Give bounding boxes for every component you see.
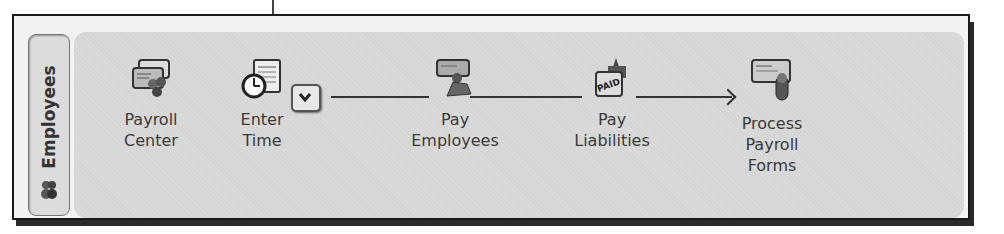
payroll-forms-icon [732, 56, 812, 109]
node-label-line: Process [732, 113, 812, 134]
node-label-line: Forms [732, 155, 812, 176]
process-payroll-forms-button[interactable]: Process Payroll Forms [732, 56, 812, 176]
payroll-center-icon [106, 56, 196, 105]
workflow-area [74, 32, 964, 218]
pay-liabilities-button[interactable]: PAID Pay Liabilities [562, 56, 662, 151]
node-label-line: Liabilities [562, 130, 662, 151]
paid-liabilities-icon: PAID [562, 56, 662, 105]
pay-employees-button[interactable]: Pay Employees [400, 56, 510, 151]
enter-time-dropdown-button[interactable] [291, 84, 321, 112]
node-label-line: Payroll [106, 109, 196, 130]
cropped-caption-text [60, 0, 620, 5]
enter-time-button[interactable]: Enter Time [232, 56, 292, 151]
chevron-down-icon [298, 91, 312, 103]
payroll-center-button[interactable]: Payroll Center [106, 56, 196, 151]
node-label-line: Pay [400, 109, 510, 130]
node-label-line: Pay [562, 109, 662, 130]
node-label-line: Time [232, 130, 292, 151]
employees-people-icon [41, 179, 57, 203]
employees-tab-label: Employees [39, 65, 59, 168]
node-label-line: Employees [400, 130, 510, 151]
employees-tab[interactable]: Employees [28, 34, 70, 216]
clock-timesheet-icon [232, 56, 292, 105]
node-label-line: Payroll [732, 134, 812, 155]
node-label-line: Center [106, 130, 196, 151]
pay-employees-icon [400, 56, 510, 105]
employees-workflow-panel: Employees Payroll Center [12, 14, 970, 220]
node-label-line: Enter [232, 109, 292, 130]
